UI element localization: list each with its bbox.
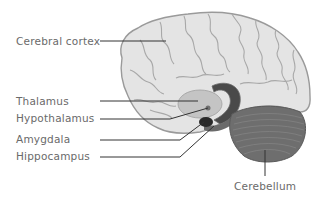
amygdala-shape: [199, 117, 213, 127]
cerebellum-shape: [230, 106, 306, 162]
brain-diagram: Cerebral cortex Thalamus Hypothalamus Am…: [0, 0, 325, 204]
thalamus-shape: [178, 90, 222, 118]
label-hippocampus: Hippocampus: [16, 150, 90, 162]
label-amygdala: Amygdala: [16, 133, 70, 145]
label-cerebellum: Cerebellum: [234, 180, 296, 192]
label-hypothalamus: Hypothalamus: [16, 112, 95, 124]
label-cerebral-cortex: Cerebral cortex: [16, 35, 100, 47]
label-thalamus: Thalamus: [16, 95, 69, 107]
